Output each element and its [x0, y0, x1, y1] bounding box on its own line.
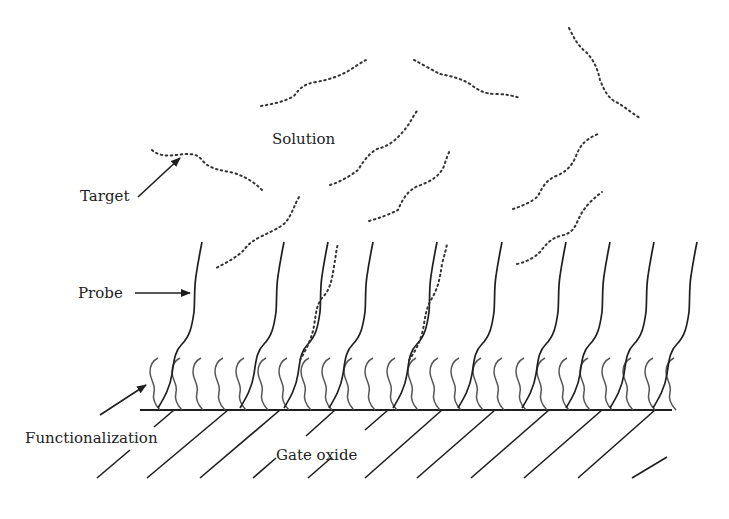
free-targets [152, 28, 640, 268]
target-arrow [138, 158, 180, 197]
label-functionalization: Functionalization [25, 431, 158, 446]
bound-targets [300, 244, 447, 360]
label-target: Target [80, 189, 129, 204]
biosensor-diagram: Solution Target Probe Functionalization … [0, 0, 729, 519]
label-gate-oxide: Gate oxide [276, 448, 357, 463]
gate-oxide-hatching [97, 410, 667, 478]
functionalization-layer [150, 358, 676, 410]
functionalization-arrow [100, 385, 146, 415]
label-solution: Solution [272, 132, 335, 147]
label-probe: Probe [78, 286, 123, 301]
